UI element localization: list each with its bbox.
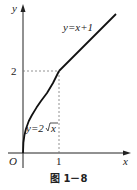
svg-text:x: x [50,122,56,134]
origin-label: O [9,155,17,167]
svg-text:y=2: y=2 [25,122,44,134]
x-axis-label: x [122,155,128,167]
y-axis-arrow-icon [21,4,26,12]
figure-caption: 图 1－8 [50,173,87,184]
x-tick-1: 1 [56,155,62,167]
figure: y x O 1 2 y=x+1 y=2 x 图 1－8 [0,0,137,190]
y-axis-label: y [11,2,17,14]
curve-sqrt [23,71,59,153]
y-tick-2: 2 [11,65,17,77]
label-line: y=x+1 [62,21,93,33]
label-sqrt: y=2 x [25,122,58,134]
